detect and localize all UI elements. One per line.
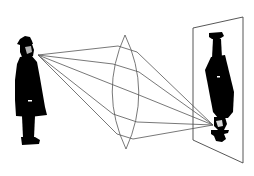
- shoes: [21, 137, 40, 145]
- inverted-legs: [212, 39, 222, 58]
- convex-lens: [112, 35, 139, 149]
- bowler-hat: [17, 36, 33, 45]
- legs: [22, 116, 35, 138]
- ray-3: [38, 55, 213, 125]
- lens-image-diagram: [0, 0, 254, 176]
- lens-left-surface: [112, 35, 126, 149]
- inverted-hand-highlight: [217, 76, 220, 78]
- man-object: [15, 36, 47, 145]
- hand-highlight: [28, 100, 32, 102]
- light-rays: [38, 46, 213, 139]
- overcoat: [15, 55, 47, 117]
